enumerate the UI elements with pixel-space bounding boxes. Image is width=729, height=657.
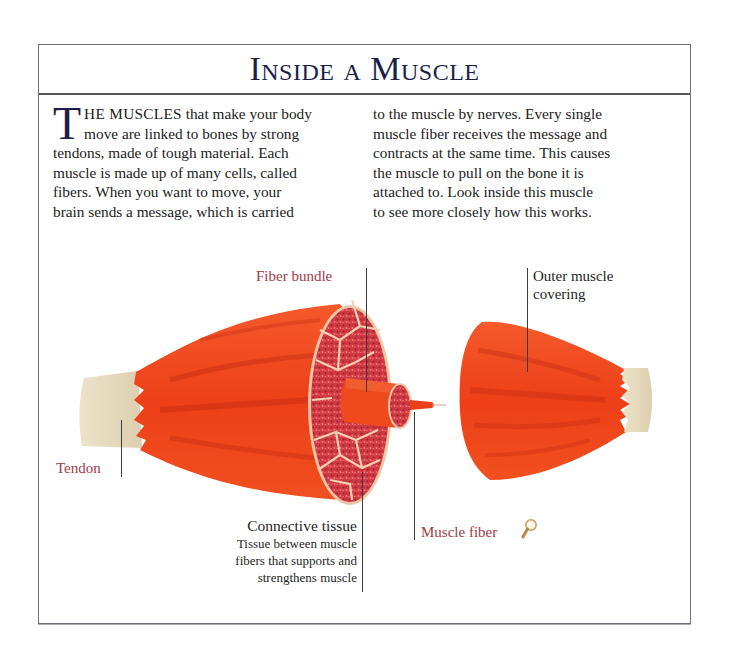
intro-line: move are linked to bones by strong xyxy=(53,124,359,144)
intro-line: HE MUSCLES that make your body xyxy=(53,104,359,124)
connective-tissue-heading: Connective tissue xyxy=(235,516,357,535)
drop-cap: T xyxy=(53,106,81,142)
intro-column-right: to the muscle by nerves. Every single mu… xyxy=(373,104,679,222)
intro-line: the muscle to pull on the bone it is xyxy=(373,163,679,183)
label-connective-tissue: Connective tissue Tissue between muscle … xyxy=(235,516,357,586)
connective-tissue-desc: strengthens muscle xyxy=(235,569,357,586)
lead-caps: HE MUSCLES xyxy=(84,105,182,122)
intro-line: muscle fiber receives the message and xyxy=(373,124,679,144)
intro-line: muscle is made up of many cells, called xyxy=(53,163,359,183)
label-tendon: Tendon xyxy=(56,459,101,477)
intro-text: T HE MUSCLES that make your body move ar… xyxy=(53,104,679,222)
magnifying-glass-icon xyxy=(520,518,538,540)
intro-line: tendons, made of tough material. Each xyxy=(53,143,359,163)
intro-line: fibers. When you want to move, your xyxy=(53,182,359,202)
label-muscle-fiber: Muscle fiber xyxy=(421,523,497,541)
connective-tissue-desc: Tissue between muscle xyxy=(235,535,357,552)
connective-tissue-desc: fibers that supports and xyxy=(235,552,357,569)
title-band: Inside a Muscle xyxy=(39,45,690,95)
intro-line: brain sends a message, which is carried xyxy=(53,202,359,222)
intro-line: attached to. Look inside this muscle xyxy=(373,182,679,202)
label-outer-muscle-covering: Outer muscle covering xyxy=(533,267,613,303)
page-frame: Inside a Muscle T HE MUSCLES that make y… xyxy=(38,44,691,624)
label-outer-line: Outer muscle xyxy=(533,267,613,285)
intro-column-left: T HE MUSCLES that make your body move ar… xyxy=(53,104,359,222)
label-outer-line: covering xyxy=(533,285,613,303)
intro-line: to see more closely how this works. xyxy=(373,202,679,222)
intro-line-text: that make your body xyxy=(182,105,312,122)
intro-line: to the muscle by nerves. Every single xyxy=(373,104,679,124)
label-fiber-bundle: Fiber bundle xyxy=(256,267,332,285)
intro-line: contracts at the same time. This causes xyxy=(373,143,679,163)
page-title: Inside a Muscle xyxy=(249,52,479,86)
